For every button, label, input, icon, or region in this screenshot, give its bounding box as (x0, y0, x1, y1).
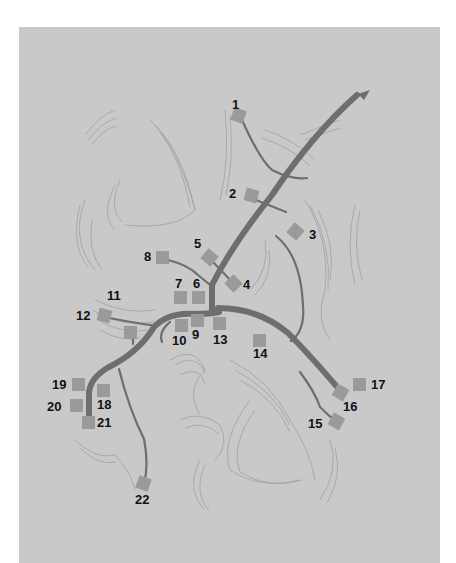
location-marker-6[interactable] (192, 291, 205, 304)
location-marker-13[interactable] (213, 317, 226, 330)
location-label-1: 1 (232, 98, 239, 111)
location-label-10: 10 (172, 334, 186, 347)
location-label-14: 14 (253, 347, 267, 360)
location-label-21: 21 (97, 416, 111, 429)
location-marker-20[interactable] (70, 399, 83, 412)
main-road (89, 95, 357, 418)
location-label-7: 7 (175, 277, 182, 290)
location-label-9: 9 (192, 328, 199, 341)
location-label-22: 22 (135, 493, 149, 506)
location-label-8: 8 (144, 250, 151, 263)
location-label-15: 15 (308, 417, 322, 430)
location-marker-11[interactable] (124, 326, 137, 339)
location-label-11: 11 (107, 289, 121, 302)
location-label-17: 17 (371, 378, 385, 391)
location-marker-10[interactable] (175, 319, 188, 332)
location-label-19: 19 (52, 378, 66, 391)
secondary-roads (109, 120, 337, 484)
arrow-northeast-icon (358, 90, 370, 100)
location-marker-7[interactable] (174, 291, 187, 304)
terrain-and-roads (19, 27, 440, 563)
location-label-13: 13 (213, 333, 227, 346)
location-label-5: 5 (194, 237, 201, 250)
location-label-6: 6 (193, 277, 200, 290)
location-label-4: 4 (243, 278, 250, 291)
location-label-2: 2 (229, 187, 236, 200)
location-label-16: 16 (343, 400, 357, 413)
location-marker-8[interactable] (156, 251, 169, 264)
location-label-18: 18 (97, 398, 111, 411)
location-marker-21[interactable] (82, 416, 95, 429)
location-marker-19[interactable] (72, 378, 85, 391)
location-marker-9[interactable] (191, 314, 204, 327)
location-label-12: 12 (76, 309, 90, 322)
location-marker-18[interactable] (97, 384, 110, 397)
location-label-20: 20 (47, 400, 61, 413)
map-canvas[interactable]: 12345678910111213141516171819202122 (19, 27, 440, 563)
location-marker-17[interactable] (353, 378, 366, 391)
location-label-3: 3 (309, 228, 316, 241)
